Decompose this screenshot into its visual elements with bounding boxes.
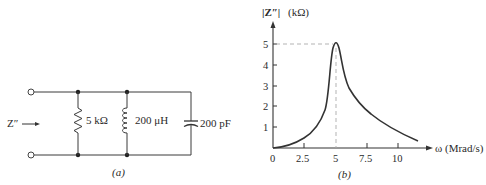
inductor-icon: [123, 92, 128, 155]
y-tick-label: 4: [263, 60, 269, 71]
impedance-plot: 1 2 3 4 5 0 2.5 5 7.5 10 |Z″| (kΩ) ω (Mr…: [262, 6, 484, 181]
x-tick-label: 5: [333, 153, 338, 164]
impedance-curve: [273, 43, 418, 148]
figure: 5 kΩ 200 μH 200 pF Z″ (a): [0, 0, 486, 185]
terminal-top: [28, 89, 34, 95]
inductor-label: 200 μH: [135, 114, 168, 126]
circuit-diagram: 5 kΩ 200 μH 200 pF Z″ (a): [7, 89, 231, 179]
x-axis-label: ω (Mrad/s): [435, 142, 484, 155]
capacitor-icon: [184, 92, 198, 155]
terminal-bottom: [28, 152, 34, 158]
resistor-icon: [74, 92, 82, 155]
x-tick-label: 10: [392, 153, 403, 164]
x-tick-label: 7.5: [359, 153, 372, 164]
capacitor-label: 200 pF: [200, 117, 231, 129]
y-tick-label: 1: [263, 122, 268, 133]
y-tick-label: 3: [263, 81, 268, 92]
caption-b: (b): [338, 168, 351, 181]
y-ticks: [273, 44, 277, 127]
y-tick-label: 2: [263, 101, 268, 112]
impedance-label: Z″: [7, 117, 18, 129]
x-tick-label: 0: [270, 153, 275, 164]
y-tick-label: 5: [263, 39, 268, 50]
x-axis-arrow-icon: [426, 146, 433, 151]
y-axis-arrow-icon: [271, 21, 276, 28]
y-axis-unit: (kΩ): [288, 6, 309, 19]
caption-a: (a): [112, 166, 125, 179]
arrow-right-icon: [22, 122, 40, 126]
x-tick-label: 2.5: [296, 153, 309, 164]
x-ticks: [304, 143, 398, 148]
resistor-label: 5 kΩ: [86, 114, 108, 126]
y-axis-label: |Z″|: [262, 6, 280, 18]
